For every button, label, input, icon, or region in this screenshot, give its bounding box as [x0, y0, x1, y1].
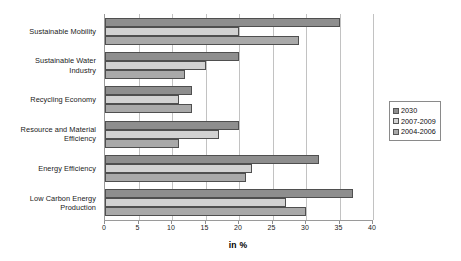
legend-label: 2007-2009	[401, 117, 436, 126]
bar	[105, 139, 179, 148]
bar	[105, 121, 239, 130]
category-label: Sustainable Mobility	[0, 27, 96, 36]
legend-swatch-icon	[393, 129, 399, 135]
plot-area	[104, 14, 373, 221]
bar-chart: Sustainable MobilitySustainable WaterInd…	[0, 0, 461, 261]
legend-label: 2030	[401, 106, 417, 115]
x-tick-label: 25	[262, 224, 282, 231]
category-axis-labels: Sustainable MobilitySustainable WaterInd…	[0, 14, 100, 220]
category-label-line: Sustainable Mobility	[0, 27, 96, 36]
legend-item[interactable]: 2004-2006	[393, 127, 436, 137]
category-label-line: Production	[0, 203, 96, 212]
gridline-40	[373, 14, 374, 220]
category-label-line: Resource and Material	[0, 125, 96, 134]
legend-swatch-icon	[393, 118, 399, 124]
bar	[105, 36, 299, 45]
category-label: Recycling Economy	[0, 95, 96, 104]
bar	[105, 104, 192, 113]
bar-group	[105, 189, 373, 216]
x-tick-label: 40	[362, 224, 382, 231]
category-label-line: Recycling Economy	[0, 95, 96, 104]
bar-group	[105, 86, 373, 113]
category-label: Energy Efficiency	[0, 164, 96, 173]
bar	[105, 155, 319, 164]
legend-label: 2004-2006	[401, 127, 436, 136]
bar	[105, 130, 219, 139]
bar	[105, 70, 185, 79]
legend-item[interactable]: 2030	[393, 106, 436, 116]
bar	[105, 86, 192, 95]
bar	[105, 95, 179, 104]
category-label: Low Carbon EnergyProduction	[0, 194, 96, 212]
bar-group	[105, 155, 373, 182]
x-tick-label: 20	[228, 224, 248, 231]
bar-group	[105, 121, 373, 148]
x-tick-label: 35	[329, 224, 349, 231]
bar	[105, 18, 340, 27]
category-label-line: Low Carbon Energy	[0, 194, 96, 203]
category-label: Sustainable WaterIndustry	[0, 56, 96, 74]
bar	[105, 198, 286, 207]
category-label-line: Sustainable Water	[0, 56, 96, 65]
x-tick-label: 5	[128, 224, 148, 231]
bar-group	[105, 52, 373, 79]
bar-group	[105, 18, 373, 45]
bar	[105, 189, 353, 198]
x-axis-title: in %	[104, 240, 372, 250]
bar	[105, 173, 246, 182]
x-tick-label: 15	[195, 224, 215, 231]
category-label-line: Energy Efficiency	[0, 164, 96, 173]
bar	[105, 61, 206, 70]
x-tick-label: 30	[295, 224, 315, 231]
legend-swatch-icon	[393, 108, 399, 114]
x-axis-ticks: 0510152025303540	[104, 221, 372, 233]
chart-legend: 20302007-20092004-2006	[389, 101, 441, 141]
bar	[105, 27, 239, 36]
bar	[105, 164, 252, 173]
legend-item[interactable]: 2007-2009	[393, 116, 436, 126]
x-tick-label: 10	[161, 224, 181, 231]
bar	[105, 207, 306, 216]
category-label-line: Efficiency	[0, 134, 96, 143]
bar	[105, 52, 239, 61]
category-label: Resource and MaterialEfficiency	[0, 125, 96, 143]
category-label-line: Industry	[0, 66, 96, 75]
x-tick-label: 0	[94, 224, 114, 231]
